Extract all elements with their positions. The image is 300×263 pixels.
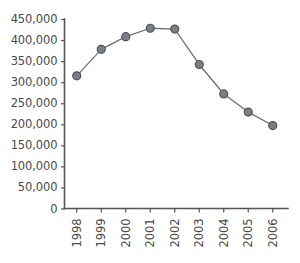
x-axis-tick-label: 1999 [94,219,108,248]
data-point-marker [73,72,81,80]
line-chart: 050,000100,000150,000200,000250,000300,0… [0,0,300,263]
y-axis-tick-label: 150,000 [11,138,58,152]
data-point-marker [122,33,130,41]
x-axis-tick-label: 2002 [168,219,182,248]
data-point-marker [269,122,277,130]
x-axis-tick-label: 2004 [217,219,231,248]
data-point-marker [244,108,252,116]
x-axis-tick-label: 2001 [143,219,157,248]
data-point-marker [171,25,179,33]
data-point-marker [220,90,228,98]
x-axis-tick-label: 2006 [266,219,280,248]
x-axis-tick-label: 2003 [192,219,206,248]
chart-canvas: 050,000100,000150,000200,000250,000300,0… [0,0,300,263]
y-axis-tick-label: 0 [50,202,57,216]
data-point-markers [73,24,277,129]
y-axis-tick-label: 350,000 [11,54,58,68]
x-axis-tick-label: 1998 [70,219,84,248]
y-axis-tick-label: 100,000 [11,159,58,173]
data-series-line [77,28,273,125]
y-axis-tick-label: 300,000 [11,75,58,89]
x-axis-tick-labels: 199819992000200120022003200420052006 [70,219,280,248]
y-axis-tick-label: 450,000 [11,12,58,26]
x-axis-tick-label: 2000 [119,219,133,248]
x-axis-tick-label: 2005 [241,219,255,248]
data-point-marker [97,45,105,53]
y-axis-tick-label: 400,000 [11,33,58,47]
y-axis-tick-labels: 050,000100,000150,000200,000250,000300,0… [11,12,58,216]
data-point-marker [195,60,203,68]
y-axis-tick-label: 250,000 [11,96,58,110]
y-axis-tick-label: 50,000 [18,180,58,194]
data-point-marker [146,24,154,32]
y-axis-tick-label: 200,000 [11,117,58,131]
